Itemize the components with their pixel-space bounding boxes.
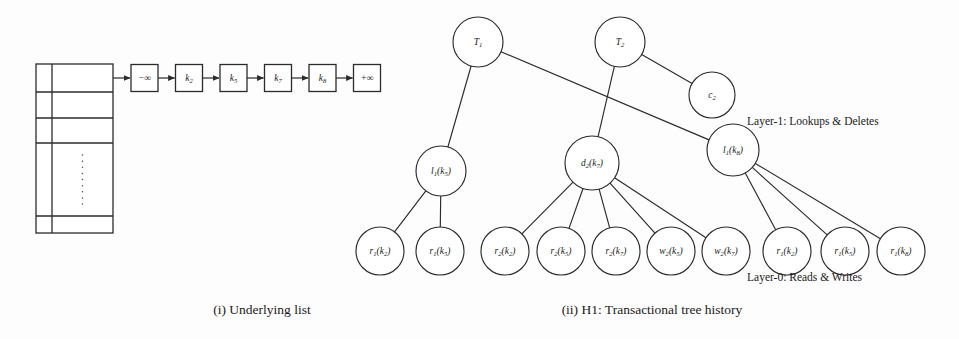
tree-edge-group <box>395 52 881 239</box>
bucket-table-ellipsis-dot <box>82 191 84 193</box>
bucket-table-outline <box>36 64 113 233</box>
tree-node-label-r1k5-a: r1(k5) <box>430 246 451 257</box>
caption-tree-history: (ii) H1: Transactional tree history <box>562 302 743 317</box>
tree-edge-T1-to-l1k8 <box>501 52 709 140</box>
tree-edge-l1k8-to-r1k5-b <box>752 167 827 235</box>
tree-edge-l1k8-to-r1k2-b <box>745 173 775 230</box>
caption-underlying-list: (i) Underlying list <box>213 302 311 317</box>
transactional-tree-panel: T1T2c2l1(k5)d2(k7)l1(k8)r1(k2)r1(k5)r2(k… <box>356 17 925 275</box>
bucket-table-ellipsis-dot <box>82 197 84 199</box>
tree-edge-d2k7-to-w2k7 <box>615 178 706 238</box>
bucket-table-ellipsis-dot <box>82 173 84 175</box>
tree-node-label-r2k5: r2(k5) <box>551 246 572 257</box>
tree-edge-T2-to-d2k7 <box>598 66 614 136</box>
tree-node-label-r1k2-a: r1(k2) <box>370 246 391 257</box>
list-node-label-box-neg-inf: −∞ <box>138 73 151 83</box>
tree-edge-d2k7-to-r2k2 <box>522 182 573 234</box>
layer-1-label: Layer-1: Lookups & Deletes <box>747 115 879 128</box>
tree-node-label-r1k2-b: r1(k2) <box>777 246 798 257</box>
tree-node-label-r2k7: r2(k7) <box>606 246 627 257</box>
tree-edge-l1k5-to-r1k2-a <box>395 191 426 232</box>
bucket-table-ellipsis-dot <box>82 154 84 156</box>
tree-edge-d2k7-to-r2k5 <box>569 188 583 228</box>
tree-edge-d2k7-to-r2k7 <box>599 189 610 228</box>
bucket-table-ellipsis-dot <box>82 167 84 169</box>
tree-node-label-r1k5-b: r1(k5) <box>835 246 856 257</box>
list-bucket-table <box>36 64 113 233</box>
tree-node-group: T1T2c2l1(k5)d2(k7)l1(k8)r1(k2)r1(k5)r2(k… <box>356 17 925 275</box>
tree-node-label-w2k5: w2(k5) <box>659 246 683 257</box>
tree-edge-d2k7-to-w2k5 <box>610 183 655 233</box>
bucket-table-ellipsis-dot <box>82 179 84 181</box>
bucket-table-ellipsis-dot <box>82 203 84 205</box>
tree-node-label-r1k8: r1(k8) <box>891 246 912 257</box>
bucket-table-ellipsis-dot <box>82 160 84 162</box>
underlying-list-panel: −∞k2k5k7k8+∞ <box>36 64 381 233</box>
bucket-table-ellipsis-dot <box>82 185 84 187</box>
figure-label-group: Layer-1: Lookups & Deletes Layer-0: Read… <box>213 115 879 317</box>
layer-0-label: Layer-0: Reads & Writes <box>747 271 863 284</box>
tree-edge-T1-to-l1k5 <box>448 66 471 147</box>
tree-node-label-r2k2: r2(k2) <box>495 246 516 257</box>
figure-container: −∞k2k5k7k8+∞ T1T2c2l1(k5)d2(k7)l1(k8)r1(… <box>0 0 959 339</box>
list-node-label-box-pos-inf: +∞ <box>360 73 373 83</box>
tree-edge-T2-to-c2 <box>642 54 692 83</box>
tree-node-label-d2k7: d2(k7) <box>581 158 603 169</box>
tree-node-label-w2k7: w2(k7) <box>714 246 738 257</box>
figure-canvas: −∞k2k5k7k8+∞ T1T2c2l1(k5)d2(k7)l1(k8)r1(… <box>0 0 959 339</box>
